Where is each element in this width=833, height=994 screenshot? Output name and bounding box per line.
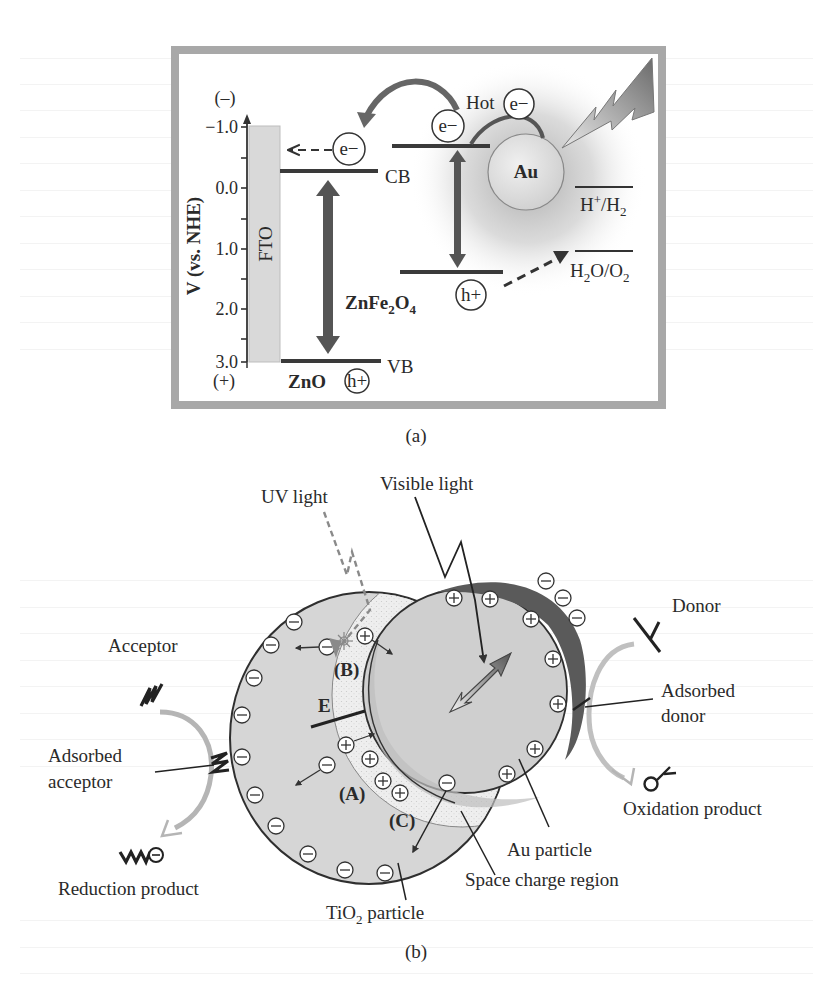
space-charge-region-label: Space charge region	[465, 869, 619, 890]
svg-text:h+: h+	[461, 284, 481, 305]
uv-light-label: UV light	[261, 486, 328, 507]
cb-label: CB	[385, 166, 410, 187]
reduction-product-label: Reduction product	[58, 878, 200, 899]
svg-text:e−: e−	[438, 115, 457, 136]
acceptor-molecule-icon	[141, 684, 162, 706]
axis-title: V (vs. NHE)	[183, 197, 205, 295]
tick-label: 2.0	[216, 299, 239, 319]
h-redox-label: H+/H2	[580, 192, 627, 219]
au-particle-pointer	[519, 759, 549, 827]
panel-b: E (B) (A) (C) UV light Visible light Acc…	[48, 473, 763, 963]
tick-label: 1.0	[216, 239, 239, 259]
au-particle-label: Au particle	[507, 839, 592, 860]
panel-a: −1.0 0.0 1.0 2.0 3.0 (–) (+) V (vs. NHE)…	[175, 50, 662, 447]
svg-text:e−: e−	[509, 93, 528, 114]
adsorbed-donor-pointer	[585, 699, 653, 707]
region-b-label: (B)	[334, 659, 359, 681]
donor-reaction-arrow	[589, 644, 634, 778]
adsorbed-acceptor-label-1: Adsorbed	[48, 745, 122, 766]
oxidation-product-label: Oxidation product	[623, 798, 763, 819]
znfe2o4-electron: e−	[432, 110, 464, 142]
vb-label: VB	[387, 356, 413, 377]
hot-electron: e−	[504, 89, 534, 119]
region-a-label: (A)	[339, 783, 365, 805]
oxidation-product-icon	[645, 767, 677, 791]
region-c-label: (C)	[389, 810, 415, 832]
au-label: Au	[514, 161, 539, 182]
tick-label: −1.0	[205, 117, 238, 137]
donor-label: Donor	[672, 595, 721, 616]
acceptor-label: Acceptor	[108, 635, 178, 656]
svg-text:h+: h+	[347, 370, 367, 391]
hot-label: Hot	[466, 92, 495, 113]
fto-label: FTO	[255, 226, 276, 262]
tick-label: 0.0	[216, 178, 239, 198]
znfe2o4-hole: h+	[456, 280, 486, 310]
zno-label: ZnO	[288, 371, 326, 392]
zno-hole: h+	[345, 369, 369, 393]
positive-sign-label: (+)	[213, 371, 235, 392]
adsorbed-donor-label-2: donor	[661, 705, 706, 726]
reduction-product-icon	[120, 848, 163, 862]
tick-label: 3.0	[216, 352, 239, 372]
adsorbed-acceptor-label-2: acceptor	[48, 771, 113, 792]
panel-b-caption: (b)	[405, 941, 427, 963]
field-label: E	[318, 695, 331, 716]
visible-light-label: Visible light	[380, 473, 474, 494]
figure: −1.0 0.0 1.0 2.0 3.0 (–) (+) V (vs. NHE)…	[0, 0, 833, 994]
zno-electron: e−	[333, 133, 365, 165]
svg-text:e−: e−	[339, 138, 358, 159]
panel-a-caption: (a)	[405, 425, 426, 447]
donor-molecule-icon	[634, 618, 660, 652]
tio2-particle-label: TiO2 particle	[326, 902, 424, 927]
negative-sign-label: (–)	[215, 88, 236, 109]
adsorbed-donor-label-1: Adsorbed	[661, 680, 735, 701]
adsorbed-acceptor-pointer	[155, 765, 214, 772]
